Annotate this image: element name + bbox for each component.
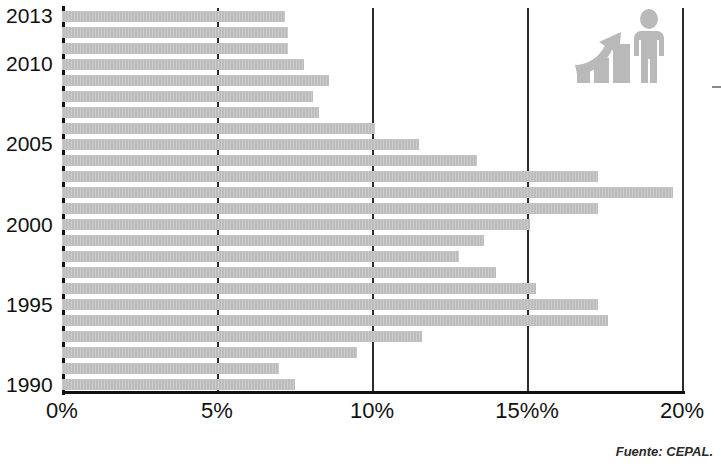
bar-2007	[62, 107, 319, 118]
bar-2005	[62, 139, 419, 150]
y-tick-1990: 1990	[6, 374, 58, 395]
bar-2001	[62, 203, 598, 214]
bar-2008	[62, 91, 313, 102]
y-tick-2005: 2005	[6, 133, 58, 154]
bar-2010	[62, 59, 304, 70]
gridline-20	[682, 8, 684, 393]
bar-2009	[62, 75, 329, 86]
x-tick-10: 10%	[350, 399, 394, 423]
x-tick-5: 5%	[201, 399, 233, 423]
y-tick-2000: 2000	[6, 214, 58, 235]
bar-1991	[62, 363, 279, 374]
bar-2012	[62, 27, 288, 38]
right-edge-mark	[712, 86, 721, 88]
bar-1995	[62, 299, 598, 310]
bar-2000	[62, 219, 530, 230]
y-tick-1995: 1995	[6, 294, 58, 315]
y-tick-2013: 2013	[6, 5, 58, 26]
x-tick-0: 0%	[46, 399, 78, 423]
bar-1998	[62, 251, 459, 262]
bar-1993	[62, 331, 422, 342]
bar-2013	[62, 11, 285, 22]
bar-2011	[62, 43, 288, 54]
bar-1999	[62, 235, 484, 246]
bar-1994	[62, 315, 608, 326]
bar-1990	[62, 379, 295, 390]
bar-chart: 201320102005200019951990 0%5%10%15%%20% …	[0, 0, 721, 468]
bar-2004	[62, 155, 477, 166]
x-tick-15: 15%%	[495, 399, 559, 423]
bar-1997	[62, 267, 496, 278]
source-note: Fuente: CEPAL.	[616, 444, 713, 459]
bar-1992	[62, 347, 357, 358]
bar-2003	[62, 171, 598, 182]
bar-2002	[62, 187, 673, 198]
bar-2006	[62, 123, 375, 134]
growth-bars-person-icon	[575, 8, 675, 86]
y-tick-2010: 2010	[6, 53, 58, 74]
x-axis-line	[62, 391, 685, 394]
x-tick-20: 20%	[660, 399, 704, 423]
bar-1996	[62, 283, 536, 294]
